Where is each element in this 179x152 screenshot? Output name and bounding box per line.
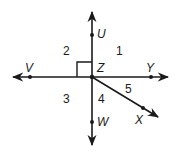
point-U bbox=[90, 33, 94, 37]
point-W bbox=[90, 120, 94, 124]
point-X bbox=[141, 106, 145, 110]
label-W: W bbox=[97, 115, 110, 129]
angle-label-3: 3 bbox=[63, 92, 70, 106]
label-V: V bbox=[25, 61, 34, 75]
angle-label-2: 2 bbox=[63, 44, 70, 58]
angle-label-4: 4 bbox=[98, 92, 105, 106]
point-V bbox=[28, 75, 32, 79]
angle-label-5: 5 bbox=[125, 82, 132, 96]
right-angle-marker bbox=[77, 62, 92, 77]
point-Z bbox=[90, 75, 95, 80]
label-U: U bbox=[97, 27, 106, 41]
angle-label-1: 1 bbox=[116, 44, 123, 58]
geometry-diagram: U V Y W X Z 1 2 3 4 5 bbox=[0, 0, 179, 152]
point-Y bbox=[149, 75, 153, 79]
label-Y: Y bbox=[146, 61, 155, 75]
label-X: X bbox=[134, 113, 144, 127]
label-Z: Z bbox=[96, 61, 105, 75]
